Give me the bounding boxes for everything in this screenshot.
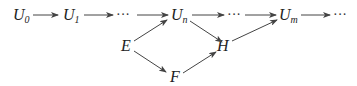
- node-u1: U1: [63, 6, 80, 25]
- edge-un-h: [190, 21, 222, 42]
- edge-f-h: [183, 52, 216, 73]
- ellipsis-2: ···: [227, 7, 241, 22]
- node-um: Um: [279, 6, 298, 25]
- edge-e-un: [134, 20, 167, 41]
- commutative-diagram: U0 U1 ··· Un ··· Um ··· E H F: [0, 0, 357, 86]
- node-un: Un: [171, 6, 188, 25]
- edge-h-um: [232, 20, 277, 41]
- node-u0: U0: [13, 6, 30, 25]
- node-f: F: [169, 68, 180, 85]
- edge-e-f: [134, 51, 166, 72]
- node-e: E: [120, 37, 131, 54]
- ellipsis-3: ···: [333, 7, 347, 22]
- ellipsis-1: ···: [116, 7, 130, 22]
